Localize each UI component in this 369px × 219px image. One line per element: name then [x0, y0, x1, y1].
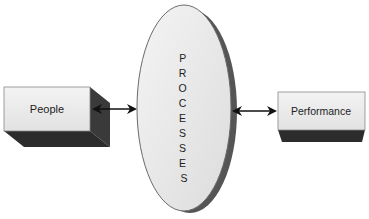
diagram-canvas: People P R O C E S S E S Performance	[0, 0, 369, 219]
performance-box: Performance	[278, 92, 365, 142]
arrow-processes-performance	[232, 106, 277, 116]
people-label: People	[30, 103, 64, 115]
performance-label: Performance	[291, 105, 351, 117]
people-box: People	[4, 87, 110, 147]
performance-box-bottom	[278, 130, 365, 142]
processes-ellipse: P R O C E S S E S	[137, 5, 237, 213]
processes-label: P R O C E S S E S	[178, 52, 189, 184]
